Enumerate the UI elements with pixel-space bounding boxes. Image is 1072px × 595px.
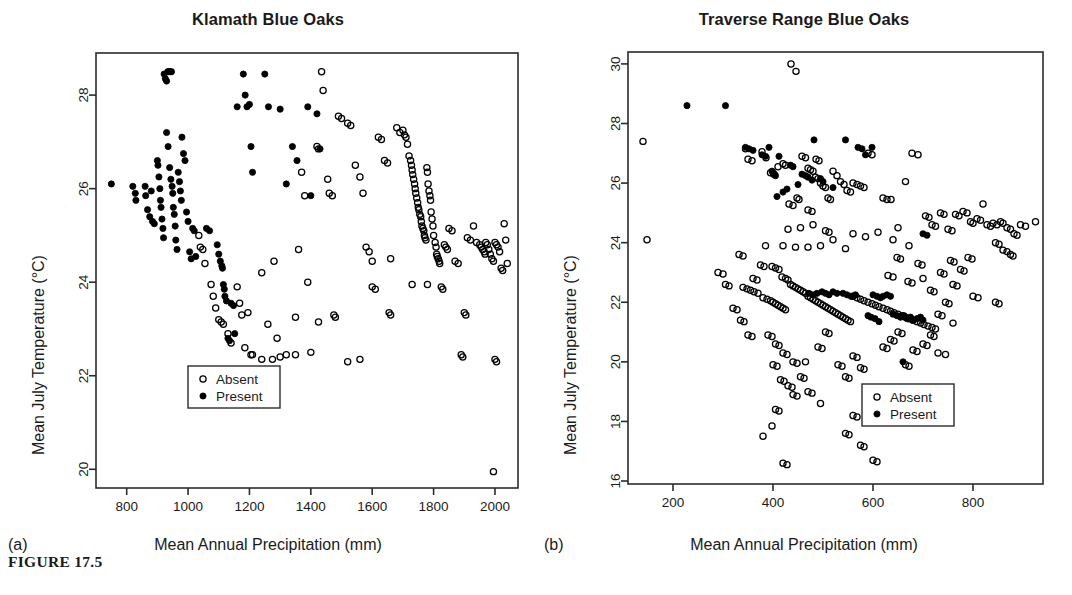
data-point	[151, 221, 157, 227]
data-point	[769, 333, 775, 339]
data-point	[183, 209, 189, 215]
panel-b-plot: 2004006008001618202224262830AbsentPresen…	[536, 0, 1072, 530]
series-present	[684, 103, 930, 365]
data-point	[770, 362, 776, 368]
data-point	[790, 359, 796, 365]
data-point	[206, 228, 212, 234]
data-point	[357, 174, 363, 180]
data-point	[210, 293, 216, 299]
data-point	[769, 423, 775, 429]
panel-a-x-axis-label: Mean Annual Precipitation (mm)	[0, 536, 536, 554]
data-point	[388, 256, 394, 262]
data-point	[163, 129, 169, 135]
data-point	[862, 234, 868, 240]
data-point	[820, 179, 826, 185]
data-point	[834, 290, 840, 296]
data-point	[1000, 247, 1006, 253]
x-tick-label: 1600	[357, 499, 387, 514]
data-point	[915, 260, 921, 266]
data-point	[157, 186, 163, 192]
data-point	[920, 317, 926, 323]
data-point	[762, 243, 768, 249]
data-point	[155, 162, 161, 168]
data-point	[980, 201, 986, 207]
data-point	[216, 251, 222, 257]
data-point	[880, 195, 886, 201]
x-tick-label: 1200	[234, 499, 264, 514]
data-point	[924, 232, 930, 238]
data-point	[887, 293, 893, 299]
data-point	[790, 392, 796, 398]
x-tick-label: 800	[115, 499, 138, 514]
data-point	[954, 283, 960, 289]
data-point	[945, 226, 951, 232]
y-tick-label: 16	[608, 474, 623, 489]
data-point	[283, 181, 289, 187]
data-point	[262, 71, 268, 77]
data-point	[640, 138, 646, 144]
data-point	[277, 106, 283, 112]
y-tick-label: 20	[76, 462, 91, 477]
data-point	[817, 243, 823, 249]
data-point	[317, 146, 323, 152]
data-point	[740, 284, 746, 290]
data-point	[809, 390, 815, 396]
data-point	[130, 183, 136, 189]
data-point	[170, 204, 176, 210]
data-point	[274, 335, 280, 341]
data-point	[745, 332, 751, 338]
data-point	[169, 183, 175, 189]
data-point	[834, 173, 840, 179]
y-tick-label: 20	[608, 354, 623, 369]
data-point	[249, 169, 255, 175]
data-point	[180, 150, 186, 156]
data-point	[910, 347, 916, 353]
legend: AbsentPresent	[862, 384, 954, 426]
data-point	[805, 207, 811, 213]
data-point	[960, 208, 966, 214]
data-point	[177, 188, 183, 194]
x-tick-label: 1400	[296, 499, 326, 514]
data-point	[792, 244, 798, 250]
y-tick-label: 22	[608, 295, 623, 310]
data-point	[842, 246, 848, 252]
data-point	[295, 246, 301, 252]
data-point	[242, 345, 248, 351]
y-tick-label: 26	[608, 176, 623, 191]
data-point	[230, 302, 236, 308]
data-point	[239, 312, 245, 318]
data-point	[292, 352, 298, 358]
data-point	[167, 165, 173, 171]
data-point	[794, 360, 800, 366]
data-point	[870, 457, 876, 463]
data-point	[425, 181, 431, 187]
data-point	[809, 208, 815, 214]
data-point	[795, 181, 801, 187]
data-point	[132, 190, 138, 196]
data-point	[788, 61, 794, 67]
legend-present-marker	[874, 411, 880, 417]
data-point	[895, 225, 901, 231]
data-point	[805, 244, 811, 250]
data-point	[880, 344, 886, 350]
data-point	[237, 300, 243, 306]
data-point	[859, 146, 865, 152]
data-point	[794, 393, 800, 399]
data-point	[766, 144, 772, 150]
data-point	[345, 359, 351, 365]
data-point	[158, 204, 164, 210]
data-point	[750, 275, 756, 281]
figure-caption: FIGURE 17.5	[8, 553, 103, 571]
data-point	[503, 237, 509, 243]
data-point	[277, 354, 283, 360]
y-tick-label: 24	[76, 274, 91, 290]
data-point	[854, 354, 860, 360]
data-point	[314, 111, 320, 117]
data-point	[914, 348, 920, 354]
data-point	[784, 186, 790, 192]
data-point	[797, 225, 803, 231]
panel-a-letter: (a)	[8, 536, 28, 554]
data-point	[848, 293, 854, 299]
panel-a-klamath: Klamath Blue Oaks 8001000120014001600180…	[0, 0, 536, 530]
data-point	[226, 338, 232, 344]
